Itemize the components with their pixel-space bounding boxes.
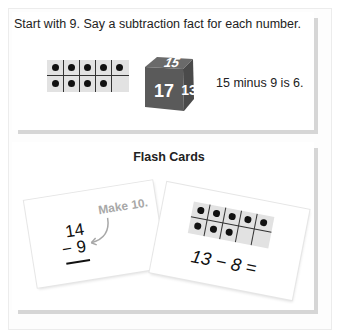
make-ten-hint: Make 10.: [97, 195, 149, 217]
counter-dot: [228, 212, 236, 220]
ten-frame: [188, 201, 275, 248]
answer-line: [66, 259, 90, 264]
counter-dot: [243, 215, 251, 223]
counter-dot: [116, 64, 123, 71]
example-fact: 15 minus 9 is 6.: [216, 76, 304, 90]
counter-dot: [225, 228, 233, 236]
ten-frame: [47, 60, 129, 92]
section-title: Flash Cards: [0, 150, 338, 164]
counter-dot: [209, 225, 217, 233]
counter-dot: [68, 80, 75, 87]
counter-dot: [68, 64, 75, 71]
counter-dot: [193, 222, 201, 230]
counter-dot: [196, 206, 204, 214]
instruction-text: Start with 9. Say a subtraction fact for…: [14, 17, 301, 31]
counter-dot: [52, 64, 59, 71]
number-cube-icon: 15 17 13: [139, 55, 195, 113]
counter-dot: [212, 209, 220, 217]
counter-dot: [84, 80, 91, 87]
equation: 13 − 8 =: [189, 246, 258, 279]
counter-dot: [259, 218, 267, 226]
counter-dot: [52, 80, 59, 87]
counter-dot: [100, 80, 107, 87]
svg-text:17: 17: [154, 81, 174, 101]
subtrahend: − 9: [61, 237, 88, 261]
counter-dot: [84, 64, 91, 71]
svg-text:13: 13: [181, 82, 195, 98]
counter-dot: [100, 64, 107, 71]
